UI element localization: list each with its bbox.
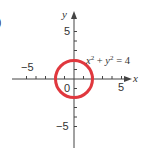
graph-figure: ) — [0, 0, 142, 151]
x-tick-label-neg5: −5 — [21, 62, 34, 73]
origin-label: 0 — [64, 83, 70, 94]
x-tick-label-5: 5 — [118, 82, 124, 93]
equation-label: x2 + y2 = 4 — [86, 55, 130, 67]
y-tick-label-neg5: −5 — [56, 121, 69, 132]
x-axis-label: x — [133, 73, 138, 84]
y-tick-label-5: 5 — [64, 26, 70, 37]
y-axis-arrow-icon — [71, 11, 77, 19]
y-axis-label: y — [62, 9, 67, 20]
graph-plot — [0, 0, 142, 151]
x-axis-arrow-icon — [124, 76, 132, 82]
